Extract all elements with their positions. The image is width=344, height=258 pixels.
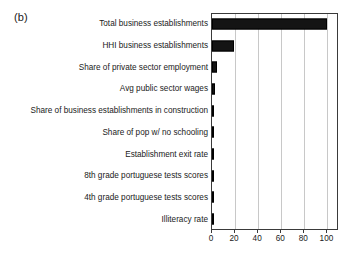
chart-rows: Total business establishmentsHHI busines… — [0, 13, 344, 230]
chart-row: 8th grade portuguese tests scores — [0, 165, 344, 187]
bar — [212, 214, 214, 225]
bar-track — [212, 165, 338, 187]
bar — [212, 170, 214, 181]
category-label: 8th grade portuguese tests scores — [8, 171, 208, 180]
chart-row: 4th grade portuguese tests scores — [0, 187, 344, 209]
bar — [212, 105, 214, 116]
bar-track — [212, 143, 338, 165]
x-tick — [303, 230, 304, 233]
chart-row: Share of pop w/ no schooling — [0, 122, 344, 144]
chart-row: Total business establishments — [0, 13, 344, 35]
bar — [212, 83, 215, 94]
bar — [212, 192, 214, 203]
bar — [212, 127, 214, 138]
category-label: 4th grade portuguese tests scores — [8, 193, 208, 202]
bar-track — [212, 187, 338, 209]
x-tick — [211, 230, 212, 233]
bar-track — [212, 56, 338, 78]
bar — [212, 62, 217, 73]
category-label: HHI business establishments — [8, 41, 208, 50]
x-tick — [280, 230, 281, 233]
x-tick-label: 80 — [299, 234, 308, 244]
chart-row: Share of private sector employment — [0, 56, 344, 78]
x-tick-label: 0 — [209, 234, 214, 244]
chart-row: Share of business establishments in cons… — [0, 100, 344, 122]
x-tick-label: 100 — [320, 234, 334, 244]
x-tick — [234, 230, 235, 233]
category-label: Total business establishments — [8, 19, 208, 28]
bar-track — [212, 13, 338, 35]
bar — [212, 149, 214, 160]
bar-track — [212, 208, 338, 230]
bar-track — [212, 35, 338, 57]
bar-track — [212, 122, 338, 144]
bar — [212, 18, 327, 29]
bar-track — [212, 100, 338, 122]
x-tick-label: 40 — [253, 234, 262, 244]
bar — [212, 40, 234, 51]
x-tick-label: 60 — [276, 234, 285, 244]
chart-row: HHI business establishments — [0, 35, 344, 57]
chart-row: Establishment exit rate — [0, 143, 344, 165]
x-tick — [326, 230, 327, 233]
category-label: Illiteracy rate — [8, 215, 208, 224]
category-label: Share of business establishments in cons… — [8, 106, 208, 115]
category-label: Share of private sector employment — [8, 63, 208, 72]
chart-row: Illiteracy rate — [0, 208, 344, 230]
chart-row: Avg public sector wages — [0, 78, 344, 100]
x-tick — [257, 230, 258, 233]
x-tick-label: 20 — [230, 234, 239, 244]
bar-track — [212, 78, 338, 100]
category-label: Establishment exit rate — [8, 150, 208, 159]
category-label: Share of pop w/ no schooling — [8, 128, 208, 137]
category-label: Avg public sector wages — [8, 84, 208, 93]
x-axis: 020406080100 — [211, 230, 338, 256]
bar-chart-figure: (b) Total business establishmentsHHI bus… — [0, 0, 344, 258]
